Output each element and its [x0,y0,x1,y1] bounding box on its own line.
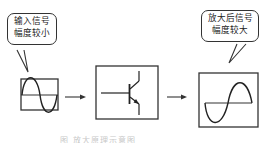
arrow-right-icon [65,95,86,100]
output-bubble-tail [229,44,246,63]
input-callout-line2: 幅度较小 [10,27,54,39]
input-signal-callout: 输入信号 幅度较小 [7,13,57,45]
output-callout-line2: 幅度较大 [204,24,256,36]
output-callout-line1: 放大后信号 [204,12,256,24]
input-callout-line1: 输入信号 [10,15,54,27]
input-bubble-tail [17,50,28,72]
arrow-right-icon [167,95,187,100]
input-signal-box [21,78,58,113]
amplifier-box [96,66,158,119]
figure-caption: 图 放大原理示意图 [60,134,210,143]
output-signal-box [199,73,258,127]
output-signal-callout: 放大后信号 幅度较大 [201,10,259,42]
